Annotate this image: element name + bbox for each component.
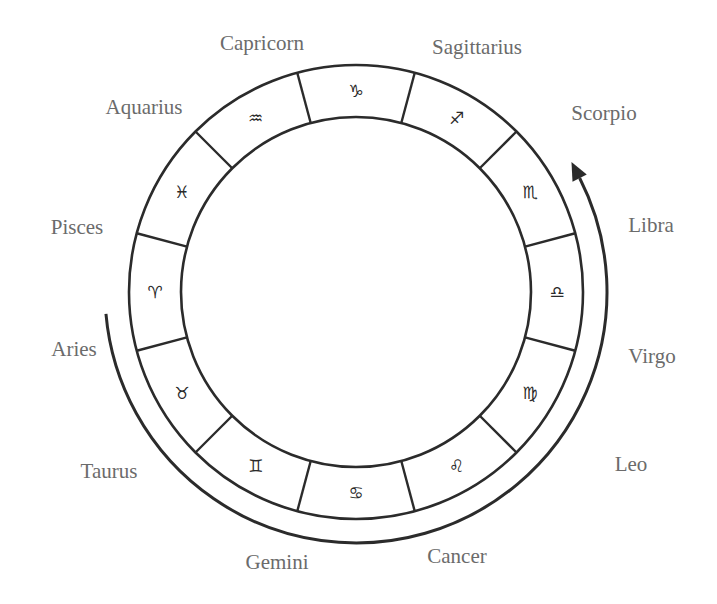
label-aquarius: Aquarius bbox=[106, 95, 183, 120]
aquarius-glyph-icon: ♒ bbox=[248, 108, 263, 128]
sector-divider bbox=[297, 73, 310, 123]
label-taurus: Taurus bbox=[81, 459, 138, 484]
cancer-glyph-icon: ♋ bbox=[348, 483, 363, 503]
sector-divider bbox=[401, 461, 414, 511]
label-capricorn: Capricorn bbox=[220, 31, 304, 56]
label-libra: Libra bbox=[628, 213, 673, 238]
sector-divider bbox=[480, 131, 517, 168]
label-cancer: Cancer bbox=[427, 544, 486, 569]
label-gemini: Gemini bbox=[246, 550, 309, 575]
sector-divider bbox=[195, 131, 232, 168]
capricorn-glyph-icon: ♑ bbox=[348, 81, 363, 101]
sector-divider bbox=[401, 73, 414, 123]
pisces-glyph-icon: ♓ bbox=[174, 182, 189, 202]
sector-divider bbox=[137, 233, 187, 246]
gemini-glyph-icon: ♊ bbox=[248, 456, 263, 476]
inner-ring bbox=[181, 117, 531, 467]
scorpio-glyph-icon: ♏ bbox=[522, 182, 537, 202]
label-leo: Leo bbox=[615, 452, 648, 477]
aries-glyph-icon: ♈ bbox=[147, 282, 162, 302]
label-scorpio: Scorpio bbox=[571, 101, 636, 126]
label-virgo: Virgo bbox=[628, 344, 675, 369]
zodiac-diagram: ♈Aries♉Taurus♊Gemini♋Cancer♌Leo♍Virgo♎Li… bbox=[0, 0, 717, 604]
libra-glyph-icon: ♎ bbox=[549, 282, 564, 302]
virgo-glyph-icon: ♍ bbox=[522, 383, 537, 403]
sagittarius-glyph-icon: ♐ bbox=[449, 108, 464, 128]
sector-divider bbox=[525, 337, 575, 350]
sector-divider bbox=[137, 337, 187, 350]
label-aries: Aries bbox=[51, 337, 97, 362]
label-sagittarius: Sagittarius bbox=[432, 35, 522, 60]
sector-divider bbox=[195, 416, 232, 453]
sector-divider bbox=[480, 416, 517, 453]
sector-divider bbox=[525, 233, 575, 246]
sector-divider bbox=[297, 461, 310, 511]
taurus-glyph-icon: ♉ bbox=[174, 383, 189, 403]
leo-glyph-icon: ♌ bbox=[449, 456, 464, 476]
label-pisces: Pisces bbox=[51, 215, 104, 240]
